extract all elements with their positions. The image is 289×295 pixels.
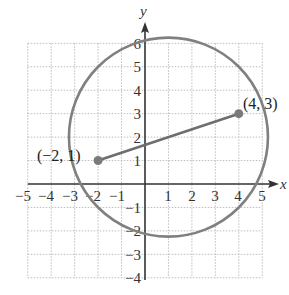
coordinate-plane: x y −5 −4 −3 −2 −1 1 2 3 4 5 6 5 4 3 2 1… (0, 0, 289, 295)
x-tick: 5 (258, 188, 266, 204)
point-b-label: (4, 3) (243, 95, 278, 113)
y-tick: −1 (125, 200, 141, 216)
y-tick: 4 (134, 83, 142, 99)
x-tick: −4 (38, 188, 54, 204)
y-axis-label: y (138, 3, 147, 19)
y-tick: 3 (134, 106, 142, 122)
x-tick: 2 (188, 188, 196, 204)
y-tick: −4 (125, 270, 141, 286)
point-a (94, 156, 103, 165)
x-tick: 4 (234, 188, 242, 204)
x-tick: 1 (164, 188, 172, 204)
x-tick: −1 (109, 188, 125, 204)
x-axis-label: x (279, 176, 287, 192)
point-a-label: (−2, 1) (37, 147, 81, 165)
x-tick: −5 (15, 188, 31, 204)
x-tick: −3 (62, 188, 78, 204)
y-tick: 5 (134, 59, 142, 75)
y-tick: 1 (134, 153, 142, 169)
y-tick: 2 (134, 130, 142, 146)
x-tick: 3 (211, 188, 219, 204)
y-tick: −3 (125, 247, 141, 263)
point-b (234, 109, 243, 118)
